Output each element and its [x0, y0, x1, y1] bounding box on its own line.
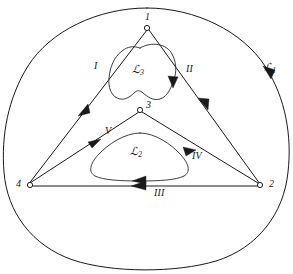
contour-subscript-1: 1 — [272, 66, 276, 75]
vertex-label-4: 4 — [16, 179, 21, 189]
inner-triangle-edge-V — [30, 112, 139, 183]
contour-label-1: ℒ1 — [264, 62, 276, 75]
vertex-label-3: 3 — [146, 100, 151, 110]
arrow-edge-II-icon — [198, 98, 209, 110]
contour-label-3: ℒ3 — [132, 64, 144, 77]
script-l-glyph-2: ℒ — [130, 145, 138, 158]
vertex-marker-1 — [144, 25, 149, 30]
vertex-marker-2 — [257, 182, 262, 187]
vertex-marker-4 — [27, 182, 32, 187]
contour-subscript-3: 3 — [140, 68, 144, 77]
diagram-canvas — [0, 0, 293, 274]
vertex-label-2: 2 — [269, 179, 274, 189]
edge-label-I: I — [94, 61, 98, 71]
script-l-glyph-3: ℒ — [132, 63, 140, 76]
edge-label-III: III — [154, 188, 165, 198]
arrow-blob-lower-icon — [132, 176, 146, 184]
contour-label-2: ℒ2 — [130, 146, 142, 159]
edge-label-II: II — [186, 64, 193, 74]
edge-label-V: V — [105, 126, 111, 136]
vertex-marker-3 — [137, 107, 142, 112]
arrow-blob-upper-icon — [168, 76, 178, 88]
contour-subscript-2: 2 — [138, 150, 142, 159]
edge-label-IV: IV — [192, 151, 202, 161]
arrow-edge-V-icon — [88, 139, 101, 148]
arrow-edge-I-icon — [78, 104, 90, 116]
outer-triangle-edge-II — [149, 30, 260, 184]
script-l-glyph-1: ℒ — [264, 61, 272, 74]
inner-triangle-edge-IV — [142, 112, 258, 183]
vertex-label-1: 1 — [145, 12, 150, 22]
outer-boundary-curve — [3, 8, 289, 270]
contour-diagram-figure: 1 2 3 4 I II III IV V ℒ1 ℒ2 ℒ3 — [0, 0, 293, 274]
